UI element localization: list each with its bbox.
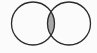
venn-diagram [0, 0, 97, 53]
